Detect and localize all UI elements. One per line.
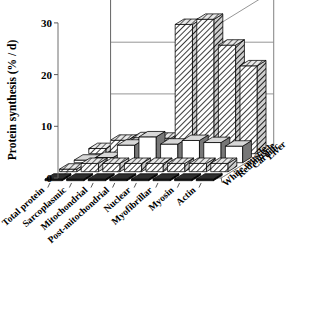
y-tick-label: 0 [47, 172, 53, 184]
chart-root: 0102030 Total proteinSarcoplasmicMitocho… [0, 0, 328, 318]
y-tick-label: 20 [41, 69, 53, 81]
x-category-label: Myosin [146, 184, 176, 213]
three-d-bar-chart: 0102030 Total proteinSarcoplasmicMitocho… [0, 0, 328, 318]
y-tick-label: 10 [41, 120, 53, 132]
y-tick-label: 30 [41, 17, 53, 29]
y-axis-title: Protein synthesis (% / d) [6, 40, 19, 161]
bar-3-7 [240, 60, 266, 153]
